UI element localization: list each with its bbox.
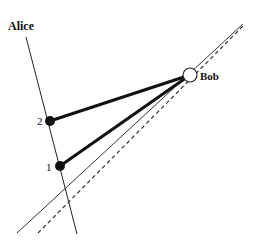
diagram-canvas: Alice Bob 2 1 [0, 0, 258, 247]
bob-node [183, 68, 197, 82]
edge-point1-to-bob [60, 75, 190, 166]
alice-axis-line [26, 37, 77, 234]
edge-point2-to-bob [50, 75, 190, 121]
dashed-reference-line [38, 26, 243, 233]
point-1-marker [55, 161, 65, 171]
point-2-label: 2 [37, 115, 43, 127]
alice-label: Alice [8, 19, 35, 33]
diagram-svg: Alice Bob 2 1 [0, 0, 258, 247]
bob-label: Bob [200, 70, 219, 82]
solid-reference-line [17, 24, 243, 233]
point-2-marker [45, 116, 55, 126]
point-1-label: 1 [46, 161, 52, 173]
